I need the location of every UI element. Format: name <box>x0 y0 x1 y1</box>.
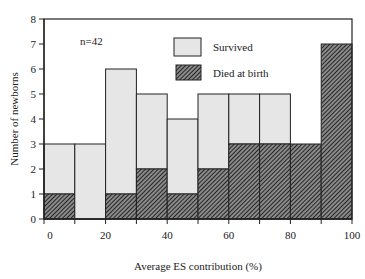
legend: SurvivedDied at birth <box>174 38 269 80</box>
bar-survived <box>229 94 260 144</box>
x-tick-label: 60 <box>223 229 235 241</box>
x-axis-title: Average ES contribution (%) <box>134 260 262 273</box>
y-tick-label: 0 <box>31 213 37 225</box>
histogram-chart: 012345678020406080100 SurvivedDied at bi… <box>0 0 365 279</box>
bar-died <box>290 144 321 219</box>
bar-died <box>167 194 198 219</box>
sample-size-annotation: n=42 <box>80 35 103 47</box>
y-tick-label: 7 <box>31 38 37 50</box>
y-tick-label: 2 <box>31 163 37 175</box>
bar-survived <box>106 69 137 194</box>
x-tick-label: 40 <box>162 229 174 241</box>
legend-label-survived: Survived <box>213 41 253 53</box>
bar-survived <box>44 144 75 194</box>
y-tick-label: 3 <box>31 138 37 150</box>
bar-died <box>44 194 75 219</box>
legend-swatch-died <box>176 65 201 80</box>
y-tick-label: 5 <box>31 88 37 100</box>
y-tick-label: 6 <box>31 63 37 75</box>
bar-died <box>260 144 291 219</box>
bar-survived <box>198 94 229 169</box>
bar-died <box>229 144 260 219</box>
y-tick-label: 1 <box>31 188 37 200</box>
bar-survived <box>75 144 106 219</box>
legend-label-died: Died at birth <box>213 67 269 79</box>
legend-swatch-survived <box>174 38 201 56</box>
bar-died <box>321 44 352 219</box>
bar-died <box>136 169 167 219</box>
x-tick-label: 100 <box>344 229 361 241</box>
y-axis-title: Number of newborns <box>8 72 20 165</box>
bar-survived <box>136 94 167 169</box>
y-tick-label: 4 <box>31 113 37 125</box>
y-tick-label: 8 <box>31 13 37 25</box>
bar-survived <box>167 119 198 194</box>
x-tick-label: 0 <box>47 229 53 241</box>
bar-survived <box>260 94 291 144</box>
x-tick-label: 80 <box>285 229 297 241</box>
x-tick-label: 20 <box>100 229 112 241</box>
bar-died <box>106 194 137 219</box>
bar-died <box>198 169 229 219</box>
